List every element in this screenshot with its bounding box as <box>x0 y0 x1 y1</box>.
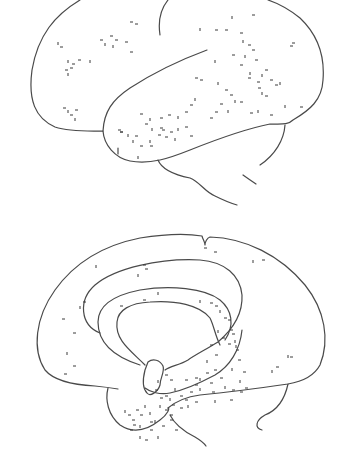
lateral-view <box>31 0 323 205</box>
corpus-callosum-outer <box>98 288 231 365</box>
medial-view <box>37 234 325 446</box>
temporal-pole-medial <box>107 388 169 430</box>
sylvian-fissure-upper <box>103 50 207 131</box>
corpus-callosum-inner <box>117 302 220 365</box>
lateral-hemisphere-outline <box>31 0 323 162</box>
medial-stipple <box>62 248 293 440</box>
cingulate-gyrus-outer <box>84 260 243 370</box>
central-sulcus <box>159 0 168 35</box>
cerebellum-fold <box>243 175 256 184</box>
figure <box>0 0 353 460</box>
brain-diagram <box>0 0 353 460</box>
cerebellum-outline <box>158 160 237 205</box>
lateral-stipple <box>58 15 303 159</box>
temporal-lower-edge <box>260 125 285 165</box>
cerebellum-medial <box>257 384 288 430</box>
